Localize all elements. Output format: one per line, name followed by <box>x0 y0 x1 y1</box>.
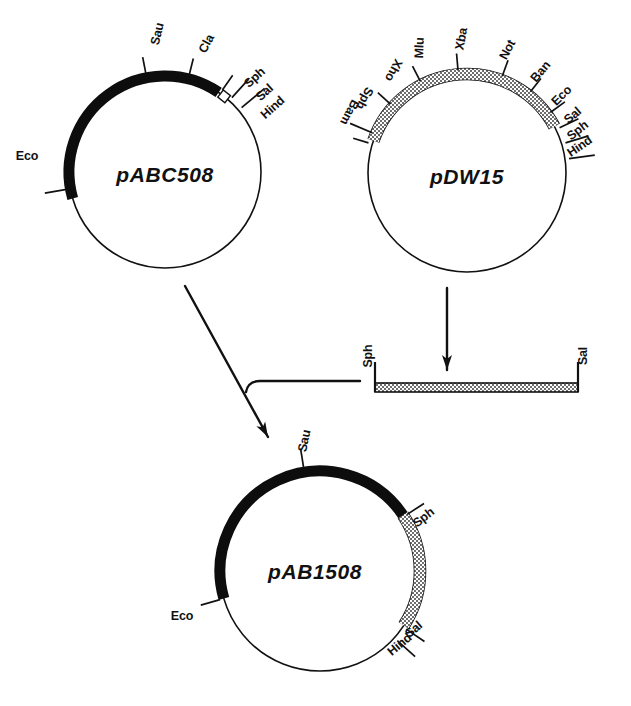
site-label-sau-0: Sau <box>295 428 313 453</box>
site-tick-xba-4 <box>457 53 458 70</box>
plasmid-name-pDW15: pDW15 <box>429 165 504 188</box>
arrow-head <box>256 421 272 439</box>
arrow-shaft <box>246 381 360 392</box>
fragment-label-sal: Sal <box>576 347 590 365</box>
site-tick-sau-0 <box>143 57 146 74</box>
diagram-canvas: SauClaSphSalHindEcopABC508BamSphXhoMluXb… <box>0 0 631 706</box>
plasmid-name-pAB1508: pAB1508 <box>267 560 362 583</box>
site-tick-eco-5 <box>45 189 67 193</box>
site-tick-not-5 <box>502 60 508 76</box>
site-tick-bam-0 <box>353 138 368 143</box>
plasmid-pABC508: SauClaSphSalHindEcopABC508 <box>16 21 287 268</box>
site-tick-xho-2 <box>378 93 391 104</box>
plasmid-layer: SauClaSphSalHindEcopABC508BamSphXhoMluXb… <box>16 21 595 671</box>
arrow-fragment-to-pab1508 <box>246 381 360 392</box>
site-tick-cla-1 <box>189 58 193 74</box>
site-tick-sph-1 <box>350 123 372 132</box>
shaded-arc-outline <box>373 74 554 141</box>
site-label-sau-0: Sau <box>148 21 167 46</box>
plasmid-pDW15: BamSphXhoMluXbaNotBanEcoSalSphHindpDW15 <box>337 25 595 272</box>
site-label-ban-6: Ban <box>528 58 554 85</box>
fragment-bar <box>375 383 578 392</box>
site-tick-sph-2 <box>222 75 232 90</box>
site-label-cla-1: Cla <box>196 31 218 55</box>
fragment-sph-sal-fragment: SphSal <box>361 344 590 392</box>
site-label-mlu-3: Mlu <box>412 37 427 58</box>
plasmid-pAB1508: SauSphSalHindEcopAB1508 <box>171 428 437 671</box>
site-label-xba-4: Xba <box>452 25 470 51</box>
plasmid-construction-figure: SauClaSphSalHindEcopABC508BamSphXhoMluXb… <box>0 0 631 706</box>
site-label-eco-5: Eco <box>16 149 39 163</box>
arrow-pdw15-to-fragment <box>442 288 452 370</box>
arrow-layer <box>185 286 452 439</box>
fragment-label-sph: Sph <box>361 344 375 367</box>
site-label-eco-7: Eco <box>549 82 575 108</box>
arrow-shaft <box>185 286 268 437</box>
site-tick-sal-3 <box>232 79 249 98</box>
fragment-layer: SphSal <box>361 344 590 392</box>
site-label-not-5: Not <box>496 37 518 62</box>
arrow-pabc508-to-pab1508 <box>185 286 272 439</box>
site-label-eco-4: Eco <box>171 609 194 623</box>
plasmid-name-pABC508: pABC508 <box>115 163 214 186</box>
site-label-xho-2: Xho <box>382 57 405 84</box>
site-tick-mlu-3 <box>413 66 421 81</box>
site-tick-eco-4 <box>201 600 220 606</box>
